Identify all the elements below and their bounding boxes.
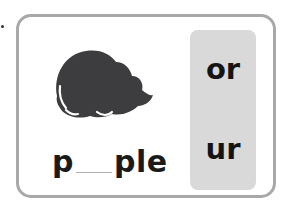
option-or[interactable]: or [190, 52, 256, 86]
word-blank[interactable] [76, 171, 112, 173]
word-suffix: ple [114, 144, 168, 180]
option-ur[interactable]: ur [190, 132, 256, 166]
word-with-blank: p ple [52, 144, 168, 180]
options-panel: or ur [190, 30, 256, 190]
purple-blob-icon [52, 46, 158, 124]
bullet-dot [1, 25, 4, 28]
word-prefix: p [52, 144, 74, 180]
